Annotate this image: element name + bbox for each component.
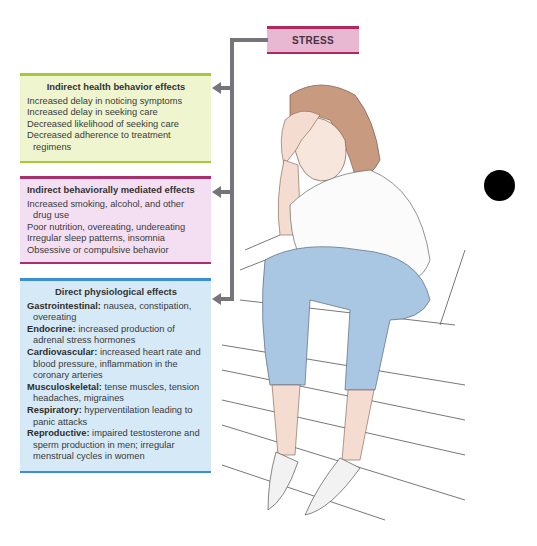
- box-title: Direct physiological effects: [27, 286, 205, 298]
- list-item: Increased smoking, alcohol, and other dr…: [27, 199, 205, 222]
- system-label: Cardiovascular:: [27, 347, 97, 357]
- list-item: Endocrine: increased production of adren…: [27, 324, 205, 347]
- list-item: Gastrointestinal: nausea, constipation, …: [27, 301, 205, 324]
- list-item: Increased delay in noticing symptoms: [27, 96, 205, 108]
- list-item: Obsessive or compulsive behavior: [27, 245, 205, 257]
- connector-top: [230, 38, 268, 42]
- list-item: Decreased likelihood of seeking care: [27, 119, 205, 131]
- stressed-woman-illustration: [215, 70, 475, 530]
- list-item: Cardiovascular: increased heart rate and…: [27, 347, 205, 382]
- list-item: Decreased adherence to treatment regimen…: [27, 130, 205, 153]
- indirect-health-behavior-box: Indirect health behavior effects Increas…: [20, 73, 211, 163]
- box-title: Indirect behaviorally mediated effects: [27, 184, 205, 196]
- list-item: Irregular sleep patterns, insomnia: [27, 233, 205, 245]
- list-item: Musculoskeletal: tense muscles, tension …: [27, 382, 205, 405]
- list-item: Poor nutrition, overeating, undereating: [27, 222, 205, 234]
- system-label: Endocrine:: [27, 324, 76, 334]
- stress-root-box: STRESS: [267, 26, 359, 54]
- system-label: Musculoskeletal:: [27, 382, 102, 392]
- system-label: Reproductive:: [27, 428, 90, 438]
- system-label: Gastrointestinal:: [27, 301, 101, 311]
- black-dot-marker: [484, 170, 515, 201]
- list-item: Reproductive: impaired testosterone and …: [27, 428, 205, 463]
- indirect-behaviorally-mediated-box: Indirect behaviorally mediated effects I…: [20, 176, 211, 264]
- list-item: Respiratory: hyperventilation leading to…: [27, 405, 205, 428]
- stress-label: STRESS: [292, 35, 334, 46]
- list-item: Increased delay in seeking care: [27, 107, 205, 119]
- box-title: Indirect health behavior effects: [27, 81, 205, 93]
- direct-physiological-box: Direct physiological effects Gastrointes…: [20, 278, 211, 473]
- system-label: Respiratory:: [27, 405, 82, 415]
